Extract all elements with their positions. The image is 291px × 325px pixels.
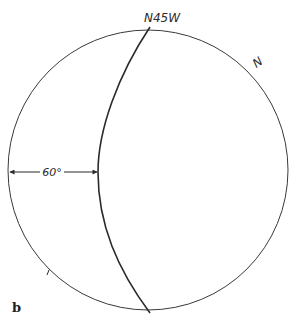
north-label: N: [250, 54, 265, 71]
stereonet-diagram: N45W N 60°: [0, 0, 291, 325]
dip-angle-label: 60°: [42, 166, 62, 179]
tick-mark: [47, 270, 49, 275]
panel-label: b: [12, 300, 21, 315]
great-circle-arc: [98, 27, 150, 313]
strike-label: N45W: [144, 11, 181, 25]
